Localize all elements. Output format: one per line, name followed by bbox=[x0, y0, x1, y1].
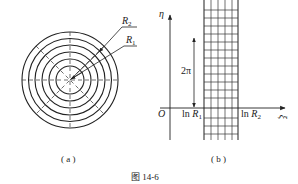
r1-subscript: 1 bbox=[132, 39, 136, 47]
period-label: 2π bbox=[181, 66, 191, 76]
ln-r1-label: ln R1 bbox=[182, 109, 202, 121]
origin-label: O bbox=[158, 109, 165, 119]
ln-r1-subscript: 1 bbox=[198, 113, 202, 121]
ln-r2-subscript: 2 bbox=[257, 113, 261, 121]
ln-r2-prefix: ln bbox=[241, 108, 251, 119]
eta-axis-label: η bbox=[159, 9, 164, 19]
ln-r1-prefix: ln bbox=[182, 108, 192, 119]
xi-axis-label: ξ bbox=[278, 115, 288, 119]
r1-label: R1 bbox=[126, 35, 136, 47]
figure-canvas bbox=[0, 0, 298, 184]
figure-caption: 图 14-6 bbox=[131, 170, 159, 183]
panel-b-grid bbox=[204, 0, 238, 140]
panel-a-caption: ( a ) bbox=[61, 154, 76, 164]
r2-subscript: 2 bbox=[128, 20, 132, 28]
r2-label: R2 bbox=[122, 16, 132, 28]
ln-r2-label: ln R2 bbox=[241, 109, 261, 121]
panel-b-caption: ( b ) bbox=[211, 154, 226, 164]
